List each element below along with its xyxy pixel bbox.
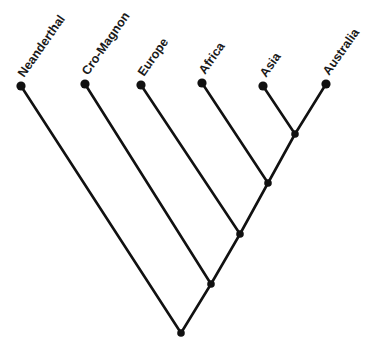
- tip-label-layer: NeanderthalCro-MagnonEuropeAfricaAsiaAus…: [15, 9, 363, 79]
- branch-neanderthal: [21, 86, 181, 333]
- tree-canvas: NeanderthalCro-MagnonEuropeAfricaAsiaAus…: [0, 0, 377, 355]
- branch-asia-australia-stem: [268, 134, 295, 183]
- branch-australia: [295, 84, 326, 134]
- tip-label-africa: Africa: [196, 39, 228, 77]
- branch-europe: [141, 85, 240, 234]
- node-root: [177, 329, 185, 337]
- node-asia-australia: [291, 130, 299, 138]
- node-africa-clade: [264, 179, 272, 187]
- tip-label-asia: Asia: [257, 49, 284, 80]
- tip-node-asia: [258, 81, 267, 90]
- branch-africa: [202, 83, 268, 183]
- node-cromagnon-clade: [207, 280, 215, 288]
- phylogenetic-tree-figure: NeanderthalCro-MagnonEuropeAfricaAsiaAus…: [0, 0, 377, 355]
- tip-node-africa: [197, 78, 206, 87]
- tip-label-cro-magnon: Cro-Magnon: [79, 9, 133, 77]
- tip-node-europe: [136, 80, 145, 89]
- tip-node-cro-magnon: [80, 79, 89, 88]
- tip-label-europe: Europe: [135, 35, 171, 78]
- tip-node-australia: [321, 79, 330, 88]
- branch-europe-clade-stem: [211, 234, 240, 284]
- tip-label-neanderthal: Neanderthal: [15, 13, 68, 80]
- branch-cromagnon-clade-stem: [181, 284, 211, 333]
- tip-node-neanderthal: [16, 81, 25, 90]
- branch-layer: [21, 83, 326, 333]
- branch-cro-magnon: [85, 84, 211, 284]
- tip-label-australia: Australia: [320, 25, 363, 78]
- branch-asia: [263, 86, 295, 134]
- branch-africa-clade-stem: [240, 183, 268, 234]
- node-europe-clade: [236, 230, 244, 238]
